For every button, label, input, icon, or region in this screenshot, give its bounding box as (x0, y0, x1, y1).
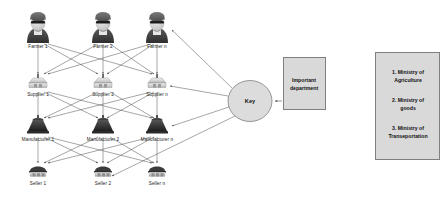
key-node-label: Key (245, 98, 255, 104)
legend-item-1-line1: 1. Ministry of (376, 68, 440, 76)
edges-key-to-nodes (112, 30, 235, 176)
node-label-farmer-1: Farmer 1 (28, 44, 47, 49)
department-label: Important department (284, 76, 324, 92)
legend-item-2-line1: 2. Ministry of (376, 96, 440, 104)
node-label-supplier-n: Supplier n (146, 92, 168, 97)
department-label-line2: department (284, 84, 324, 92)
node-label-manufacturer-1: Manufacturer 1 (22, 137, 54, 142)
node-label-seller-1: Seller 1 (30, 181, 46, 186)
legend-item-3-line2: Transeportation (376, 132, 440, 140)
legend-item-1-line2: Agriculture (376, 76, 440, 84)
node-label-seller-2: Seller 2 (95, 181, 111, 186)
legend-item-3-line1: 3. Ministry of (376, 124, 440, 132)
department-label-line1: Important (284, 76, 324, 84)
legend-item-2-line2: goods (376, 104, 440, 112)
legend-item-3: 3. Ministry of Transeportation (376, 124, 440, 140)
node-label-supplier-1: Supplier 1 (27, 92, 49, 97)
farmer-person-icon (27, 12, 168, 43)
node-label-farmer-2: Farmer 2 (93, 44, 112, 49)
node-label-supplier-2: Supplier 2 (92, 92, 114, 97)
seller-stall-icon (29, 167, 166, 177)
legend-item-1: 1. Ministry of Agriculture (376, 68, 440, 84)
node-label-manufacturer-2: Manufacturer 2 (87, 137, 119, 142)
node-label-manufacturer-n: Manufacturer n (141, 137, 173, 142)
node-label-farmer-n: Farmer n (147, 44, 166, 49)
supplier-silo-icon (29, 74, 166, 88)
diagram-canvas: Farmer 1 Farmer 2 Farmer n Supplier 1 Su… (0, 0, 443, 198)
legend-item-2: 2. Ministry of goods (376, 96, 440, 112)
node-label-seller-n: Seller n (149, 181, 165, 186)
